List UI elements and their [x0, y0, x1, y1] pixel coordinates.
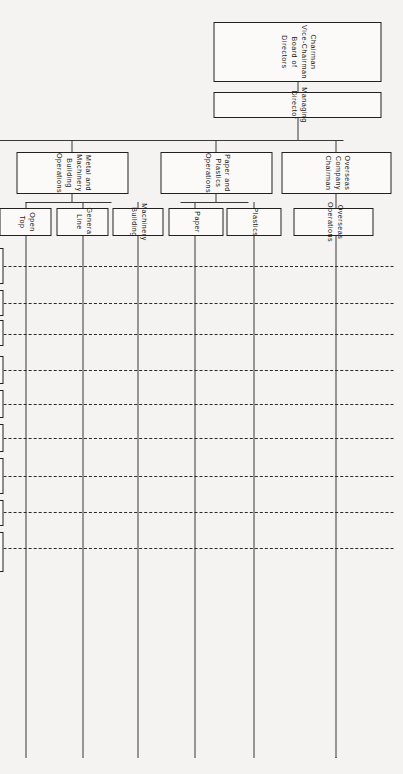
unit-box-machinery-building[interactable]: Machinery Building — [112, 208, 163, 236]
unit-box-overseas-operations[interactable]: Overseas Operations — [293, 208, 373, 236]
function-box-technological-services[interactable]: Technological Services — [0, 500, 3, 526]
connector-spine-metal — [71, 140, 72, 152]
function-box-marketing-services[interactable]: Marketing Services — [0, 390, 3, 418]
connector-paperdiv-unitspine — [215, 194, 216, 202]
unit-spine-metal — [25, 202, 111, 203]
dashed-feeder-buying-transport — [3, 548, 393, 549]
connector-unit-open-top — [25, 202, 26, 208]
connector-spine-overseas — [335, 140, 336, 152]
matrix-run-open-top — [25, 236, 26, 758]
dashed-feeder-finance — [3, 266, 393, 267]
dashed-feeder-marketing-services — [3, 404, 393, 405]
function-box-economic-services[interactable]: Economic Services — [0, 320, 3, 346]
connector-overseas-unit — [335, 194, 336, 208]
managing-director-box[interactable]: Managing Director — [213, 92, 381, 118]
matrix-run-paper — [194, 236, 195, 758]
org-chart-page: Chairman Vice-Chairman Board of Director… — [0, 0, 403, 774]
division-box-paper-plastics[interactable]: Paper and Plastics Operations — [160, 152, 272, 194]
unit-box-plastics[interactable]: Plastics — [226, 208, 281, 236]
connector-unit-paper — [194, 202, 195, 208]
chairman-box[interactable]: Chairman Vice-Chairman Board of Director… — [213, 22, 381, 82]
dashed-feeder-technological-services — [3, 512, 393, 513]
connector-unit-machinery-building — [137, 202, 138, 208]
function-box-finance[interactable]: Finance — [0, 248, 3, 284]
division-box-metal-machinery[interactable]: Metal and Machinery Building Operations — [16, 152, 128, 194]
connector-spine-paper — [215, 140, 216, 152]
division-box-overseas[interactable]: Overseas Company Chairman — [281, 152, 391, 194]
function-box-public-relations[interactable]: Public Relations and Publicity — [0, 458, 3, 494]
dashed-feeder-secretarial — [3, 303, 393, 304]
matrix-run-overseas — [335, 236, 336, 758]
connector-chairman-md — [297, 82, 298, 92]
bottom-bus-riser — [0, 140, 298, 141]
connector-metal-unitspine — [71, 194, 72, 202]
dashed-feeder-economic-services — [3, 334, 393, 335]
connector-md-spine — [297, 118, 298, 140]
connector-unit-plastics — [253, 202, 254, 208]
matrix-run-machinery-building — [137, 236, 138, 758]
dashed-feeder-public-relations — [3, 476, 393, 477]
dashed-feeder-export-sales — [3, 438, 393, 439]
matrix-run-end-overseas — [335, 757, 336, 758]
unit-box-open-top[interactable]: Open Top — [0, 208, 51, 236]
org-chart-canvas: Chairman Vice-Chairman Board of Director… — [0, 0, 403, 774]
function-box-export-sales[interactable]: Export Sales — [0, 424, 3, 452]
dashed-feeder-staff-personnel — [3, 370, 393, 371]
connector-unit-general-line — [82, 202, 83, 208]
unit-box-general-line[interactable]: General Line — [56, 208, 108, 236]
function-box-buying-transport[interactable]: Buying, Transport, Management Services, … — [0, 532, 3, 572]
unit-spine-paper-plastics — [180, 202, 248, 203]
matrix-run-plastics — [253, 236, 254, 758]
unit-box-paper[interactable]: Paper — [168, 208, 223, 236]
function-box-staff-personnel[interactable]: Staff and Personnel — [0, 356, 3, 384]
function-box-secretarial[interactable]: Secretarial — [0, 290, 3, 316]
matrix-run-general-line — [82, 236, 83, 758]
